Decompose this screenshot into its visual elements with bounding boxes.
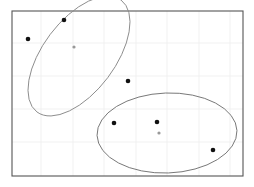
data-point	[72, 45, 75, 48]
data-point	[126, 79, 131, 84]
data-point	[112, 121, 117, 126]
plot-background	[0, 0, 254, 187]
data-point	[62, 18, 67, 23]
data-point	[26, 37, 31, 42]
scatter-plot-figure	[0, 0, 254, 187]
data-point	[155, 120, 160, 125]
data-point	[157, 131, 160, 134]
data-point	[211, 148, 216, 153]
plot-canvas	[0, 0, 254, 187]
